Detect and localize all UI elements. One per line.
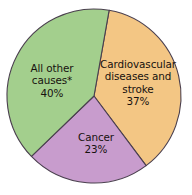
pie-label-cardiovascular-line2: diseases and [96,70,180,82]
pie-label-all-other-causes: All other causes* 40% [16,62,88,99]
pie-label-all-other-causes-line1: All other [16,62,88,74]
pie-label-cardiovascular-line3: stroke [96,83,180,95]
pie-label-cancer-percent: 23% [58,143,134,155]
pie-label-all-other-causes-percent: 40% [16,87,88,99]
pie-chart: Cardiovascular diseases and stroke 37% A… [0,0,192,195]
pie-label-cardiovascular: Cardiovascular diseases and stroke 37% [96,58,180,107]
pie-label-cardiovascular-line1: Cardiovascular [96,58,180,70]
pie-label-cancer-line1: Cancer [58,131,134,143]
pie-label-all-other-causes-line2: causes* [16,74,88,86]
pie-label-cancer: Cancer 23% [58,131,134,156]
pie-label-cardiovascular-percent: 37% [96,95,180,107]
